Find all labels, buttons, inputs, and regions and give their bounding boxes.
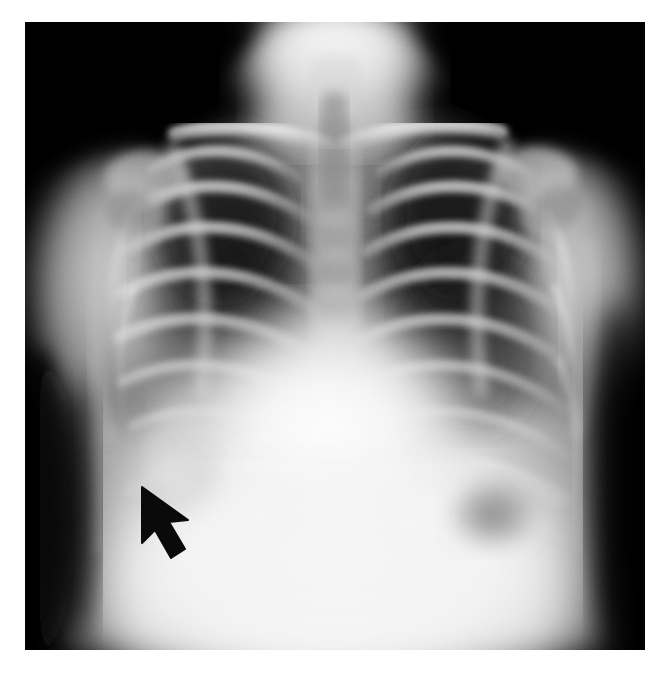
- xray-canvas: [25, 22, 645, 650]
- image-viewer: [0, 0, 668, 677]
- xray-image: [25, 22, 645, 650]
- film-grain: [25, 22, 645, 650]
